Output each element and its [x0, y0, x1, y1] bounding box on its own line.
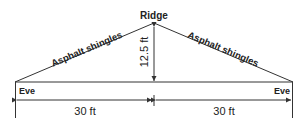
roof-diagram: Ridge Asphalt shingles Asphalt shingles …: [0, 0, 306, 128]
right-span-label: 30 ft: [213, 105, 234, 117]
left-slope-label: Asphalt shingles: [49, 29, 123, 69]
left-eave-label: Eve: [19, 86, 35, 96]
ridge-label: Ridge: [140, 10, 168, 21]
right-slope-label: Asphalt shingles: [186, 29, 260, 69]
roof-diagram-svg: Ridge Asphalt shingles Asphalt shingles …: [0, 0, 306, 128]
right-eave-label: Eve: [274, 86, 290, 96]
left-span-label: 30 ft: [74, 105, 95, 117]
height-label: 12.5 ft: [138, 37, 150, 68]
